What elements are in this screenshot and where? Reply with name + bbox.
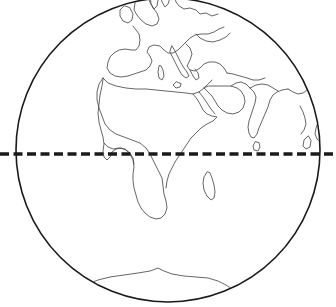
globe-map-svg (0, 0, 336, 307)
globe-disc-outline (16, 0, 320, 302)
globe-figure: Globe outline map centered on Africa Equ… (0, 0, 336, 307)
